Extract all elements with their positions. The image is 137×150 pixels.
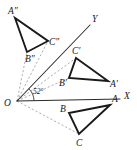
labels-group: X Y O 52° ABCA′B′C′A″B″C″	[4, 6, 131, 148]
figure-canvas: X Y O 52° ABCA′B′C′A″B″C″	[0, 0, 137, 150]
angle-measure-label: 52°	[33, 87, 43, 96]
vertex-label-a-prime: A′	[109, 79, 119, 89]
origin-label: O	[4, 98, 11, 108]
vertex-label-b-double-prime: B″	[25, 54, 36, 64]
y-axis-label: Y	[92, 14, 99, 24]
vertex-label-a-double-prime: A″	[7, 6, 19, 16]
triangle-abc	[69, 105, 110, 134]
o-to-c-construction-line	[17, 101, 79, 134]
vertex-label-b-prime: B′	[59, 78, 68, 88]
vertex-label-c-double-prime: C″	[49, 37, 60, 47]
triangle-a-double-prime-b-double-prime-c-double-prime	[15, 18, 48, 52]
vertex-label-c: C	[76, 138, 83, 148]
x-axis-label: X	[123, 91, 131, 101]
vertex-label-a: A	[111, 94, 118, 104]
o-to-c-prime-construction-line	[17, 58, 76, 101]
vertex-label-c-prime: C′	[72, 46, 81, 56]
vertex-label-b: B	[60, 104, 66, 114]
geometry-figure: X Y O 52° ABCA′B′C′A″B″C″	[0, 0, 137, 150]
triangles-group	[15, 18, 110, 134]
x-axis-line	[17, 99, 120, 101]
triangle-a-prime-b-prime-c-prime	[69, 58, 108, 81]
